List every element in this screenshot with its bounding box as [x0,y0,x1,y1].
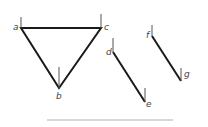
segment-fg [152,36,181,81]
label-g: g [184,70,190,79]
label-b: b [56,92,62,101]
label-f: f [146,31,149,40]
geometry-diagram: a c b d e f g [0,0,208,127]
segment-de [113,52,145,102]
label-d: d [106,48,112,57]
triangle-abc [21,28,101,88]
label-c: c [104,23,109,32]
label-a: a [13,23,19,32]
diagram-canvas [0,0,208,127]
label-e: e [146,100,152,109]
